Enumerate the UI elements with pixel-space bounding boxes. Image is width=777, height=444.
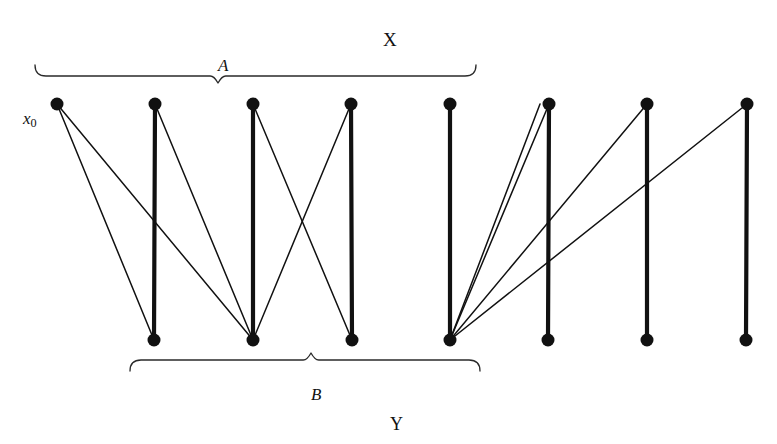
- braces-layer: [35, 65, 480, 371]
- graph-node-y1[interactable]: [247, 334, 260, 347]
- set-label-x: X: [383, 30, 397, 49]
- graph-edge: [450, 104, 549, 340]
- brace-subset-a: [35, 65, 476, 83]
- graph-node-x3[interactable]: [345, 98, 358, 111]
- graph-node-y6[interactable]: [740, 334, 753, 347]
- graph-canvas: [0, 0, 777, 444]
- graph-node-y0[interactable]: [148, 334, 161, 347]
- set-label-y: Y: [390, 415, 403, 433]
- graph-node-y5[interactable]: [641, 334, 654, 347]
- graph-edge: [57, 104, 154, 340]
- graph-node-x0[interactable]: [51, 98, 64, 111]
- graph-node-x7[interactable]: [741, 98, 754, 111]
- graph-node-x4[interactable]: [444, 98, 457, 111]
- graph-node-x2[interactable]: [247, 98, 260, 111]
- x0-subscript: 0: [31, 116, 37, 130]
- graph-node-y4[interactable]: [542, 334, 555, 347]
- x0-base: x: [23, 109, 31, 128]
- graph-node-x6[interactable]: [641, 98, 654, 111]
- graph-node-x5[interactable]: [543, 98, 556, 111]
- graph-edge: [154, 104, 155, 340]
- graph-edge: [155, 104, 253, 340]
- node-label-x0: x0: [23, 110, 37, 130]
- subset-label-b: B: [311, 386, 321, 403]
- graph-edge: [746, 104, 747, 340]
- graph-node-y3[interactable]: [444, 334, 457, 347]
- edges-layer: [57, 104, 747, 340]
- bipartite-graph-figure: X Y A B x0: [0, 0, 777, 444]
- graph-node-y2[interactable]: [346, 334, 359, 347]
- subset-label-a: A: [218, 57, 228, 74]
- graph-node-x1[interactable]: [149, 98, 162, 111]
- brace-subset-b: [130, 353, 480, 371]
- graph-edge: [351, 104, 352, 340]
